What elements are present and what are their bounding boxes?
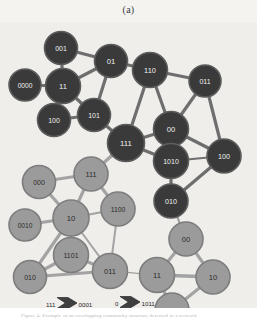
graph-node[interactable]: 011 [189, 65, 221, 97]
chevron-icon [120, 297, 140, 308]
node-circle [95, 45, 128, 78]
graph-node[interactable]: 1101 [54, 238, 89, 273]
graph-node[interactable]: 01 [95, 45, 128, 78]
node-circle [46, 69, 81, 104]
legend-target-label: 0001 [79, 301, 93, 308]
graph-node[interactable]: 0010 [9, 209, 41, 241]
graph-node[interactable]: 000 [23, 166, 56, 199]
node-circle [78, 99, 111, 132]
graph-node[interactable]: 0000 [9, 69, 41, 101]
graph-node[interactable]: 110 [133, 53, 168, 88]
legend-source-label: 111 [46, 301, 56, 308]
node-circle [133, 53, 168, 88]
node-circle [9, 209, 41, 241]
node-circle [207, 139, 241, 173]
graph-canvas: 0010000110111001110010111100101010001000… [0, 22, 257, 308]
node-circle [54, 238, 89, 273]
node-circle [93, 254, 128, 289]
network-graph-panel: 0010000110111001110010111100101010001000… [0, 22, 257, 308]
graph-node[interactable]: 00 [169, 222, 203, 256]
graph-node[interactable]: 010 [154, 184, 188, 218]
node-circle [101, 192, 135, 226]
graph-node[interactable]: 10 [196, 260, 230, 294]
graph-node[interactable]: 10 [53, 200, 89, 236]
node-circle [23, 166, 56, 199]
node-circle [38, 104, 71, 137]
graph-node[interactable]: 101 [78, 99, 111, 132]
node-circle [14, 261, 47, 294]
node-circle [53, 200, 89, 236]
graph-node[interactable]: 11 [46, 69, 81, 104]
node-circle [9, 69, 41, 101]
cut-off-caption: Figure 4. Example of an overlapping comm… [21, 313, 201, 318]
node-circle [169, 222, 203, 256]
graph-node[interactable]: 111 [108, 125, 145, 162]
node-circle [154, 184, 188, 218]
graph-node[interactable]: 011 [93, 254, 128, 289]
graph-node[interactable]: 00 [154, 112, 189, 147]
node-circle [189, 65, 221, 97]
chevron-icon [57, 298, 77, 309]
graph-node[interactable]: 111 [74, 157, 108, 191]
node-circle [155, 293, 189, 308]
node-circle [154, 144, 189, 179]
graph-node[interactable]: 001 [45, 32, 78, 65]
legend-source-label: 0 [115, 300, 119, 307]
graph-node[interactable]: 100 [38, 104, 71, 137]
graph-node[interactable]: 1100 [101, 192, 135, 226]
node-circle [108, 125, 145, 162]
legend-target-label: 1011 [142, 300, 156, 307]
node-circle [196, 260, 230, 294]
legend-mapping-arrow: 1110001 [46, 298, 93, 309]
panel-label: (a) [0, 4, 257, 15]
node-circle [140, 258, 175, 293]
graph-node[interactable]: 1010 [154, 144, 189, 179]
graph-node[interactable]: 100 [207, 139, 241, 173]
node-circle [154, 112, 189, 147]
figure-container: (a) 001000011011100111001011110010101000… [0, 0, 257, 324]
graph-node[interactable]: 11 [140, 258, 175, 293]
legend-mapping-arrow: 01011 [115, 297, 155, 308]
legend-arrow-layer: 111000101011100001110000 [46, 297, 157, 309]
graph-node[interactable]: 011 [155, 293, 189, 308]
node-circle [74, 157, 108, 191]
graph-node[interactable]: 010 [14, 261, 47, 294]
node-circle [45, 32, 78, 65]
